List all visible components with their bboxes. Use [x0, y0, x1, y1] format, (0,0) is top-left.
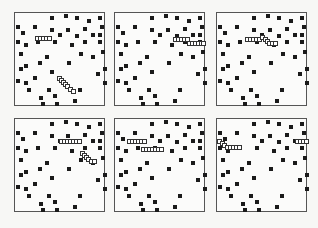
field-dot	[124, 187, 128, 191]
field-dot	[73, 99, 77, 103]
field-dot	[191, 161, 195, 165]
field-dot	[221, 173, 225, 177]
field-dot	[293, 33, 297, 37]
field-dot	[116, 131, 120, 135]
panel-2	[114, 12, 205, 106]
field-dot	[45, 55, 49, 59]
field-dot	[201, 50, 205, 54]
field-dot	[293, 55, 297, 59]
field-dot	[119, 158, 123, 162]
field-dot	[16, 40, 20, 44]
field-dot	[218, 131, 222, 135]
field-dot	[75, 16, 79, 20]
field-dot	[58, 33, 62, 37]
field-dot	[100, 131, 104, 135]
field-dot	[289, 19, 293, 23]
field-dot	[183, 27, 187, 31]
field-dot	[24, 187, 28, 191]
field-dot	[103, 67, 107, 71]
field-dot	[41, 102, 45, 106]
field-dot	[175, 140, 179, 144]
panel-5	[114, 118, 205, 212]
field-dot	[124, 170, 128, 174]
field-dot	[150, 70, 154, 74]
field-dot	[257, 102, 261, 106]
field-dot	[170, 149, 174, 153]
field-dot	[226, 187, 230, 191]
field-dot	[247, 55, 251, 59]
field-dot	[70, 43, 74, 47]
field-dot	[141, 208, 145, 212]
field-dot	[255, 146, 259, 150]
field-dot	[175, 16, 179, 20]
panel-1	[14, 12, 105, 106]
trail-segment	[304, 139, 309, 144]
field-dot	[66, 134, 70, 138]
field-dot	[119, 52, 123, 56]
field-dot	[305, 173, 309, 177]
field-dot	[24, 43, 28, 47]
field-dot	[277, 122, 281, 126]
field-dot	[87, 19, 91, 23]
field-dot	[241, 202, 245, 206]
field-dot	[83, 40, 87, 44]
field-dot	[285, 40, 289, 44]
field-dot	[277, 16, 281, 20]
field-dot	[266, 14, 270, 18]
field-dot	[285, 146, 289, 150]
field-dot	[285, 133, 289, 137]
field-dot	[179, 52, 183, 56]
field-dot	[196, 178, 200, 182]
field-dot	[201, 156, 205, 160]
field-dot	[67, 61, 71, 65]
field-dot	[173, 99, 177, 103]
field-dot	[78, 88, 82, 92]
field-dot	[280, 88, 284, 92]
field-dot	[87, 125, 91, 129]
field-dot	[226, 43, 230, 47]
field-dot	[260, 139, 264, 143]
field-dot	[145, 161, 149, 165]
field-dot	[19, 67, 23, 71]
field-dot	[53, 200, 57, 204]
field-dot	[226, 170, 230, 174]
field-dot	[300, 122, 304, 126]
field-dot	[27, 194, 31, 198]
field-dot	[277, 140, 281, 144]
field-dot	[198, 139, 202, 143]
field-dot	[24, 149, 28, 153]
field-dot	[252, 28, 256, 32]
field-dot	[300, 33, 304, 37]
field-dot	[240, 167, 244, 171]
field-dot	[243, 208, 247, 212]
trail-segment	[273, 41, 278, 46]
field-dot	[305, 81, 309, 85]
field-dot	[139, 96, 143, 100]
field-dot	[218, 79, 222, 83]
field-dot	[127, 88, 131, 92]
field-dot	[101, 156, 105, 160]
field-dot	[33, 131, 37, 135]
field-dot	[302, 131, 306, 135]
field-dot	[268, 28, 272, 32]
field-dot	[241, 96, 245, 100]
field-dot	[153, 200, 157, 204]
field-dot	[64, 14, 68, 18]
trail-segment	[47, 36, 52, 41]
field-dot	[98, 33, 102, 37]
field-dot	[79, 52, 83, 56]
field-dot	[24, 81, 28, 85]
field-dot	[229, 194, 233, 198]
field-dot	[119, 173, 123, 177]
field-dot	[252, 134, 256, 138]
field-dot	[302, 25, 306, 29]
field-dot	[121, 137, 125, 141]
trail-segment	[237, 145, 242, 150]
field-dot	[119, 67, 123, 71]
field-dot	[252, 16, 256, 20]
field-dot	[153, 94, 157, 98]
field-dot	[50, 16, 54, 20]
field-dot	[103, 173, 107, 177]
field-dot	[98, 16, 102, 20]
field-dot	[50, 122, 54, 126]
